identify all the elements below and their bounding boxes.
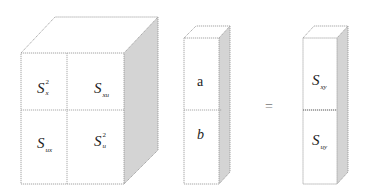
symbol: S [312, 72, 320, 88]
subscript: xy [321, 83, 327, 91]
cell-sxy: Sxy [312, 73, 327, 88]
symbol: S [37, 135, 45, 151]
subscript: ux [46, 146, 53, 154]
symbol: S [94, 80, 102, 96]
cell-sxu: Sxu [94, 81, 109, 96]
cell-a: a [197, 75, 203, 89]
subscript: uy [321, 143, 328, 151]
cell-suy: Suy [312, 133, 327, 148]
subscript: u [103, 143, 107, 150]
superscript: 2 [103, 132, 107, 139]
middle-block-vector [184, 26, 230, 184]
cell-b: b [197, 128, 204, 142]
subscript: xu [103, 91, 110, 99]
right-block-vector [303, 26, 348, 184]
symbol: S [37, 80, 45, 96]
equals-sign: = [265, 99, 273, 115]
symbol: S [312, 132, 320, 148]
cell-sx2: S2x [37, 81, 53, 96]
left-block-front-face [21, 53, 124, 184]
symbol: a [197, 74, 203, 89]
diagram-canvas [0, 0, 367, 195]
symbol: b [197, 127, 204, 142]
cell-su2: S2u [94, 134, 110, 149]
cell-sux: Sux [37, 136, 52, 151]
subscript: x [46, 90, 49, 97]
left-block-2x2 [21, 17, 158, 184]
superscript: 2 [46, 79, 50, 86]
symbol: S [94, 133, 102, 149]
